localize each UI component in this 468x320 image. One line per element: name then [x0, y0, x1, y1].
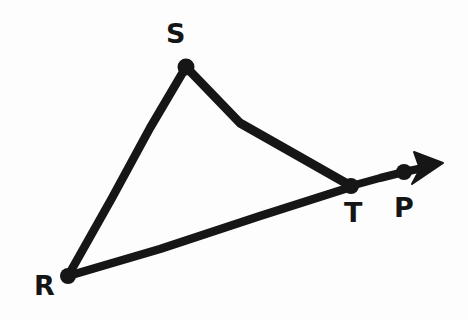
vertex-dot-s: [178, 59, 195, 76]
vertex-label-r: R: [34, 272, 55, 299]
geometry-figure: R S T P: [0, 0, 468, 320]
vertex-dot-r: [60, 268, 76, 284]
vertex-label-s: S: [166, 20, 185, 47]
segment-st: [186, 67, 351, 186]
vertex-label-t: T: [344, 199, 362, 226]
vertex-dot-p: [396, 164, 412, 180]
figure-drawing: [0, 0, 468, 320]
vertex-dot-t: [343, 178, 359, 194]
vertex-label-p: P: [394, 194, 414, 221]
